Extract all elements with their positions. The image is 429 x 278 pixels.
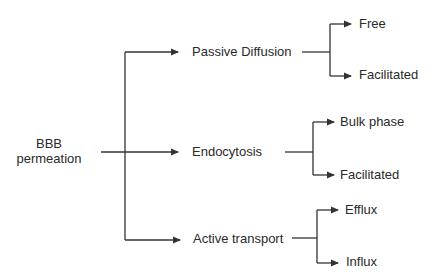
node-efflux: Efflux — [345, 202, 377, 217]
node-influx: Influx — [346, 254, 377, 269]
root-node-bbb-permeation: BBB permeation — [4, 136, 94, 166]
node-endocytosis: Endocytosis — [192, 144, 262, 159]
node-passive-diffusion: Passive Diffusion — [192, 44, 291, 59]
node-active-transport: Active transport — [193, 231, 283, 246]
node-free: Free — [359, 16, 386, 31]
root-label-line1: BBB — [4, 136, 94, 151]
node-facilitated-diffusion: Facilitated — [359, 67, 418, 82]
bbb-permeation-diagram: BBB permeation Passive Diffusion Endocyt… — [0, 0, 429, 278]
root-label-line2: permeation — [4, 151, 94, 166]
node-facilitated-endocytosis: Facilitated — [340, 167, 399, 182]
node-bulk-phase: Bulk phase — [340, 114, 404, 129]
